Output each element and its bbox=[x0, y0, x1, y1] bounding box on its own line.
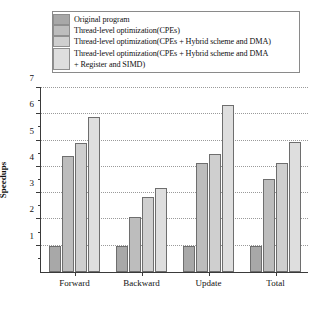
chart-legend: Original program Thread-level optimizati… bbox=[52, 11, 300, 73]
bar bbox=[49, 246, 61, 272]
x-tick bbox=[209, 272, 210, 276]
bar-group-total: Total bbox=[242, 88, 309, 272]
y-axis-label: Speedups bbox=[0, 162, 8, 199]
legend-label: Thread-level optimization(CPEs) bbox=[74, 25, 180, 36]
x-tick-label: Update bbox=[196, 278, 222, 288]
legend-swatch-thread-level-register-simd bbox=[53, 48, 70, 70]
bar bbox=[263, 179, 275, 272]
x-tick-label: Total bbox=[266, 278, 284, 288]
x-tick bbox=[142, 272, 143, 276]
bar bbox=[116, 246, 128, 272]
y-tick-label: 7 bbox=[30, 73, 35, 83]
bar bbox=[88, 117, 100, 272]
legend-item: Original program bbox=[53, 14, 297, 25]
legend-item: Thread-level optimization(CPEs + Hybrid … bbox=[53, 48, 297, 70]
legend-swatch-thread-level-hybrid-dma bbox=[53, 36, 70, 47]
speedups-bar-chart: Original program Thread-level optimizati… bbox=[0, 0, 319, 326]
bar bbox=[209, 154, 221, 272]
bar bbox=[222, 105, 234, 272]
bar bbox=[276, 163, 288, 272]
plot-area: 1234567 ForwardBackwardUpdateTotal bbox=[40, 88, 308, 273]
bar bbox=[142, 197, 154, 272]
y-tick-label: 4 bbox=[30, 152, 35, 162]
legend-label: Thread-level optimization(CPEs + Hybrid … bbox=[74, 36, 271, 47]
bar-group-forward: Forward bbox=[41, 88, 108, 272]
y-tick-label: 3 bbox=[30, 178, 35, 188]
bar bbox=[62, 156, 74, 272]
bar bbox=[129, 217, 141, 272]
x-tick-label: Forward bbox=[59, 278, 90, 288]
bar bbox=[289, 142, 301, 272]
legend-label: Thread-level optimization(CPEs + Hybrid … bbox=[74, 48, 268, 70]
y-tick-label: 2 bbox=[30, 204, 35, 214]
bar bbox=[75, 143, 87, 272]
x-tick-label: Backward bbox=[123, 278, 159, 288]
bar-group-update: Update bbox=[175, 88, 242, 272]
bar-group-backward: Backward bbox=[108, 88, 175, 272]
legend-label: Original program bbox=[74, 14, 129, 25]
bar bbox=[155, 188, 167, 272]
bar bbox=[196, 163, 208, 272]
y-tick-label: 5 bbox=[30, 126, 35, 136]
x-tick bbox=[75, 272, 76, 276]
legend-swatch-original-program bbox=[53, 14, 70, 25]
bar bbox=[183, 246, 195, 272]
legend-item: Thread-level optimization(CPEs) bbox=[53, 25, 297, 36]
y-tick-label: 6 bbox=[30, 99, 35, 109]
legend-item: Thread-level optimization(CPEs + Hybrid … bbox=[53, 36, 297, 47]
y-tick-label: 1 bbox=[30, 231, 35, 241]
x-tick bbox=[276, 272, 277, 276]
bar bbox=[250, 246, 262, 272]
legend-swatch-thread-level-cpes bbox=[53, 25, 70, 36]
